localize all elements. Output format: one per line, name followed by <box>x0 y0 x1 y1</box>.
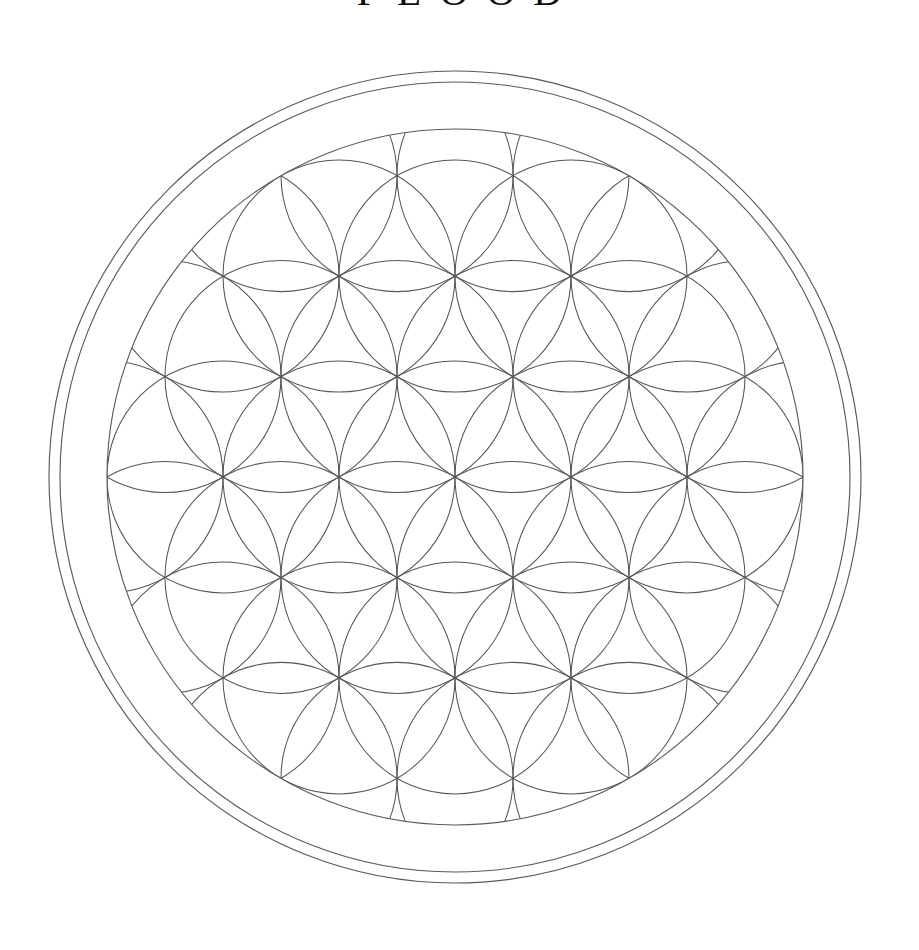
figure-page: FLOOD <box>0 0 919 950</box>
flower-of-life-canvas <box>0 0 919 950</box>
page-title-bar: FLOOD <box>0 0 919 14</box>
page-title: FLOOD <box>0 0 919 14</box>
flower-of-life-figure <box>0 0 919 950</box>
